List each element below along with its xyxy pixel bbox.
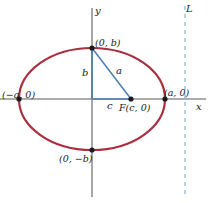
label-covertex-bottom: (0, −b) [59,154,93,164]
x-axis-label: x [196,102,202,112]
y-axis-label: y [95,6,101,16]
label-side-c: c [107,101,113,111]
label-side-a: a [116,66,122,76]
label-vertex-left: (−a, 0) [2,90,35,100]
label-side-b: b [82,68,88,78]
label-vertex-right: (a, 0) [164,88,189,98]
triangle-hypotenuse-a [92,48,131,99]
point-covertex-bottom [89,147,94,152]
point-covertex-top [89,45,94,50]
diagram-canvas [0,0,210,203]
ellipse-diagram: y x L (−a, 0) (a, 0) (0, b) (0, −b) F(c,… [0,0,210,203]
label-covertex-top: (0, b) [95,38,121,48]
directrix-label-L: L [186,4,193,14]
label-focus: F(c, 0) [119,103,150,113]
point-focus [128,96,133,101]
